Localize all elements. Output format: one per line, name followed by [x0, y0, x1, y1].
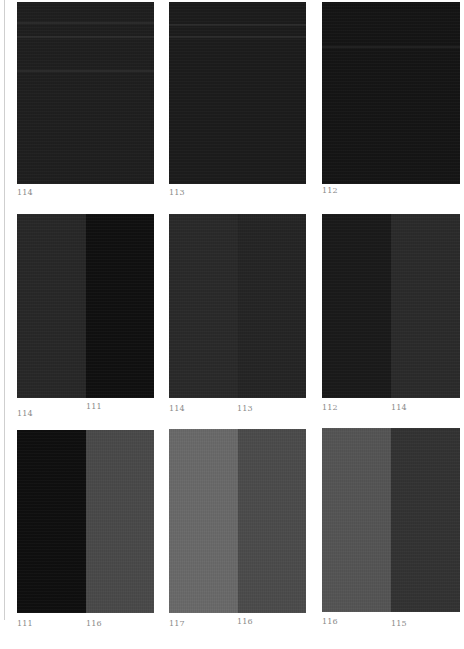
swatch-label: 113 — [237, 404, 253, 413]
swatch-panel-r1-c1 — [17, 2, 154, 184]
swatch-label: 111 — [17, 619, 33, 628]
swatch-113 — [238, 214, 307, 398]
swatch-label: 112 — [322, 403, 338, 412]
swatch-114 — [391, 214, 460, 398]
swatch-panel-r1-c3 — [322, 2, 460, 184]
swatch-label: 111 — [86, 402, 102, 411]
swatch-116 — [322, 428, 391, 612]
swatch-panel-r2-c2 — [169, 214, 306, 398]
swatch-panel-r1-c2 — [169, 2, 306, 184]
swatch-label: 116 — [86, 619, 102, 628]
swatch-117 — [169, 429, 238, 613]
swatch-panel-r2-c1 — [17, 214, 154, 398]
margin-rule — [4, 0, 5, 620]
swatch-111 — [86, 214, 155, 398]
swatch-panel-r3-c2 — [169, 429, 306, 613]
swatch-label: 117 — [169, 619, 185, 628]
swatch-113 — [169, 2, 306, 184]
swatch-label: 116 — [322, 617, 338, 626]
swatch-112 — [322, 2, 460, 184]
swatch-panel-r2-c3 — [322, 214, 460, 398]
swatch-panel-r3-c3 — [322, 428, 460, 612]
swatch-111 — [17, 430, 86, 613]
swatch-label: 114 — [17, 409, 33, 418]
swatch-116 — [238, 429, 307, 613]
swatch-114 — [169, 214, 238, 398]
swatch-label: 114 — [169, 404, 185, 413]
swatch-label: 115 — [391, 619, 407, 628]
swatch-114 — [17, 214, 86, 398]
swatch-label: 112 — [322, 186, 338, 195]
swatch-label: 114 — [17, 188, 33, 197]
swatch-114 — [17, 2, 154, 184]
swatch-label: 116 — [237, 617, 253, 626]
swatch-112 — [322, 214, 391, 398]
swatch-label: 114 — [391, 403, 407, 412]
swatch-panel-r3-c1 — [17, 430, 154, 613]
swatch-115 — [391, 428, 460, 612]
swatch-116 — [86, 430, 155, 613]
swatch-label: 113 — [169, 188, 185, 197]
